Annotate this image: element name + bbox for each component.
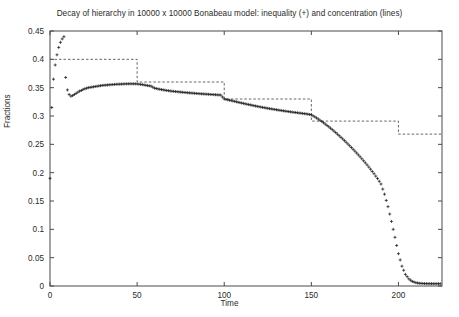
concentration-step-series (50, 59, 442, 134)
inequality-points-series (49, 35, 442, 285)
plot-frame (50, 31, 442, 286)
axis-ticks (50, 31, 442, 286)
chart-figure: Decay of hierarchy in 10000 x 10000 Bona… (0, 0, 459, 317)
plot-area (0, 0, 459, 317)
